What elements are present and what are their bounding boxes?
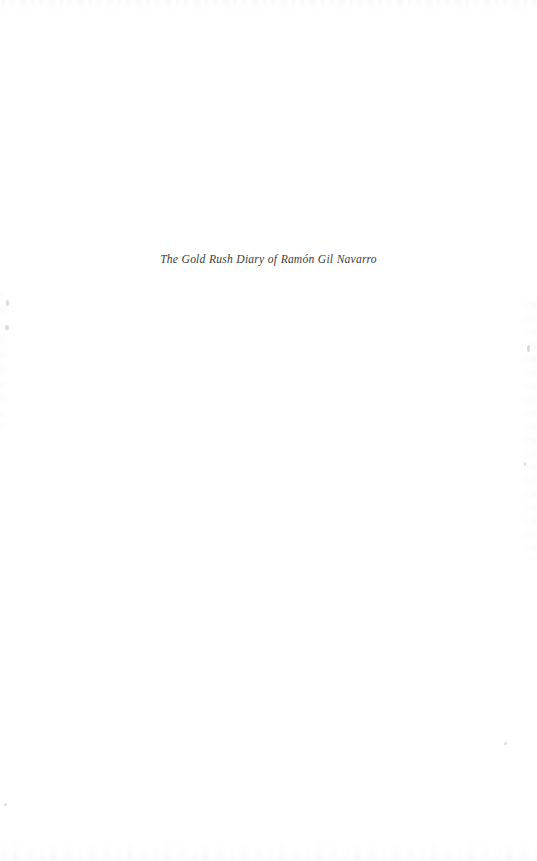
scan-speck: [6, 300, 9, 306]
scan-speck: [4, 803, 7, 806]
scan-speck: [527, 345, 530, 352]
scanned-page: The Gold Rush Diary of Ramón Gil Navarro: [0, 0, 537, 861]
scan-noise-right-edge: [515, 300, 537, 560]
half-title-text: The Gold Rush Diary of Ramón Gil Navarro: [0, 252, 537, 267]
scan-noise-top-edge: [0, 0, 537, 14]
scan-speck: [524, 462, 526, 466]
scan-speck: [504, 742, 507, 745]
scan-speck: [5, 325, 9, 330]
scan-noise-left-edge: [0, 290, 14, 430]
scan-noise-bottom-edge: [0, 838, 537, 861]
